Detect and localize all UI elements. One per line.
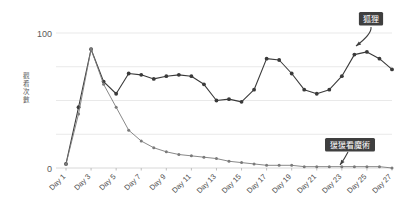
data-point-marker: [90, 48, 93, 51]
data-point-marker: [77, 113, 80, 116]
data-point-marker: [391, 167, 394, 170]
x-tick-label: Day 17: [245, 172, 268, 195]
data-point-marker: [165, 150, 168, 153]
data-point-marker: [265, 57, 269, 61]
x-tick-label: Day 23: [320, 172, 343, 195]
data-point-marker: [114, 92, 118, 96]
annotation-label: 猨猨看魔術: [325, 138, 375, 166]
x-tick-label: Day 19: [270, 172, 293, 195]
annotation-badge-text: 猨猨看魔術: [330, 140, 370, 150]
data-point-marker: [152, 77, 156, 81]
line-chart: 0100 Day 1Day 3Day 5Day 7Day 9Day 11Day …: [0, 0, 403, 222]
data-point-marker: [215, 99, 219, 103]
chart-container: 0100 Day 1Day 3Day 5Day 7Day 9Day 11Day …: [0, 0, 403, 222]
data-point-marker: [353, 165, 356, 168]
data-point-marker: [102, 83, 105, 86]
data-point-marker: [302, 88, 306, 92]
data-point-marker: [189, 74, 193, 78]
x-tick-label: Day 13: [195, 172, 218, 195]
data-point-marker: [378, 57, 382, 61]
data-point-marker: [202, 82, 206, 86]
y-axis-labels-group: 0100: [37, 29, 52, 174]
data-point-marker: [152, 146, 155, 149]
data-point-marker: [190, 154, 193, 157]
data-point-marker: [177, 73, 181, 77]
annotation-badge-text: 狐狸: [363, 14, 379, 24]
x-tick-label: Day 1: [47, 172, 67, 192]
annotation-label: 狐狸: [355, 12, 383, 48]
data-point-marker: [365, 50, 369, 54]
x-tick-label: Day 25: [345, 172, 368, 195]
data-point-marker: [240, 100, 244, 104]
x-tick-label: Day 15: [220, 172, 243, 195]
annotations-group: 狐狸猨猨看魔術: [325, 12, 383, 166]
data-point-marker: [352, 53, 356, 57]
data-point-marker: [265, 164, 268, 167]
x-tick-label: Day 7: [122, 172, 142, 192]
data-point-marker: [328, 165, 331, 168]
data-point-marker: [240, 161, 243, 164]
data-point-marker: [227, 97, 231, 101]
data-point-marker: [252, 88, 256, 92]
y-tick-label: 0: [47, 164, 52, 174]
data-point-marker: [277, 58, 281, 62]
data-point-marker: [365, 165, 368, 168]
data-point-marker: [390, 68, 394, 72]
x-tick-label: Day 9: [148, 172, 168, 192]
data-point-marker: [315, 92, 319, 96]
y-tick-label: 100: [37, 29, 52, 39]
data-point-marker: [315, 165, 318, 168]
data-point-marker: [340, 74, 344, 78]
x-tick-label: Day 27: [370, 172, 393, 195]
data-point-marker: [327, 88, 331, 92]
data-point-marker: [127, 129, 130, 132]
data-point-marker: [177, 153, 180, 156]
data-point-marker: [215, 157, 218, 160]
data-point-marker: [228, 160, 231, 163]
data-point-marker: [290, 72, 294, 76]
x-tick-label: Day 11: [170, 172, 193, 195]
data-point-marker: [340, 165, 343, 168]
x-tick-label: Day 3: [72, 172, 92, 192]
data-point-marker: [140, 140, 143, 143]
data-point-marker: [164, 74, 168, 78]
x-tick-label: Day 5: [97, 172, 117, 192]
data-point-marker: [139, 73, 143, 77]
data-point-marker: [278, 164, 281, 167]
data-point-marker: [65, 162, 68, 165]
data-point-marker: [253, 162, 256, 165]
y-axis-title: 觀看次數: [23, 71, 30, 104]
data-point-marker: [127, 72, 131, 76]
data-point-marker: [115, 106, 118, 109]
data-point-marker: [303, 165, 306, 168]
data-point-marker: [378, 165, 381, 168]
data-point-marker: [202, 156, 205, 159]
data-point-marker: [290, 164, 293, 167]
x-tick-label: Day 21: [295, 172, 318, 195]
x-axis-labels-group: Day 1Day 3Day 5Day 7Day 9Day 11Day 13Day…: [47, 168, 393, 195]
